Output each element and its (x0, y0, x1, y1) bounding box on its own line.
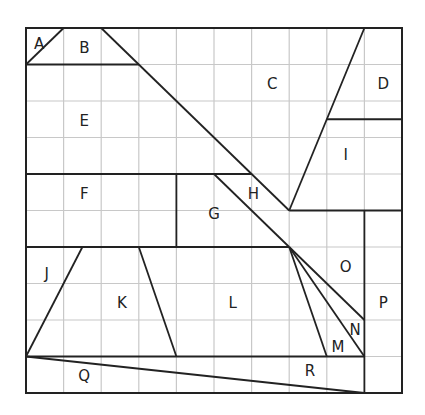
region-label-c: C (267, 75, 277, 93)
region-label-b: B (79, 39, 89, 57)
region-label-q: Q (78, 367, 90, 385)
region-label-d: D (377, 75, 389, 93)
region-label-n: N (349, 321, 360, 339)
region-label-r: R (305, 362, 315, 380)
region-label-g: G (208, 205, 220, 223)
region-label-i: I (343, 146, 347, 164)
region-label-e: E (80, 112, 89, 130)
region-label-a: A (34, 35, 45, 53)
region-label-l: L (229, 294, 238, 312)
boundary-line (26, 247, 82, 357)
region-label-j: J (43, 265, 48, 283)
boundary-line (289, 247, 327, 357)
region-label-o: O (340, 258, 352, 276)
tangram-grid-diagram: ABCDEFGHIJKLMNOPQR (0, 0, 425, 415)
region-label-m: M (332, 338, 345, 356)
region-label-k: K (117, 294, 128, 312)
boundary-line (26, 28, 64, 65)
boundary-line (101, 28, 289, 211)
region-label-p: P (379, 294, 388, 312)
region-label-h: H (248, 185, 259, 203)
region-label-f: F (80, 185, 89, 203)
boundary-line (139, 247, 177, 357)
